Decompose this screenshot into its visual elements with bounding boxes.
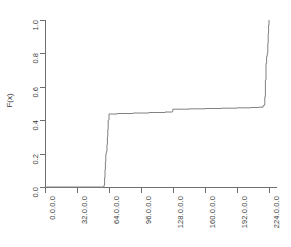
plot-area: [0, 0, 291, 247]
ecdf-curve-line: [45, 20, 269, 187]
ecdf-chart: F(x) 0.0.0.032.0.0.064.0.0.096.0.0.0128.…: [0, 0, 291, 247]
